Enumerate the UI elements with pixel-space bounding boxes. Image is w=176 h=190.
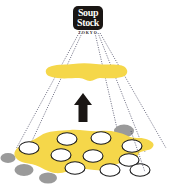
soup-stock-tokyo-logo: Soup Stock xyxy=(73,6,103,30)
store-marker-1 xyxy=(19,142,39,154)
upward-arrow xyxy=(74,93,92,122)
store-marker-5 xyxy=(51,149,71,161)
store-marker-9 xyxy=(100,164,120,176)
diagram-canvas: Soup Stock TOKYO xyxy=(0,0,176,190)
logo-line-2: Stock xyxy=(77,18,99,28)
gray-marker-4 xyxy=(1,153,16,163)
store-marker-6 xyxy=(83,150,103,162)
store-marker-10 xyxy=(130,164,150,176)
store-marker-4 xyxy=(122,140,142,152)
projection-line-2 xyxy=(32,33,82,141)
store-marker-2 xyxy=(57,133,77,145)
gray-marker-2 xyxy=(15,164,34,176)
store-marker-3 xyxy=(91,132,111,144)
gray-marker-3 xyxy=(39,173,57,184)
logo-subtitle: TOKYO xyxy=(73,30,103,35)
store-marker-8 xyxy=(65,162,85,174)
upper-yellow-band xyxy=(46,63,127,81)
